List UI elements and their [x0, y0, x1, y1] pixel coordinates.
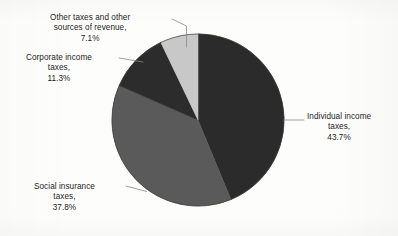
pie-slices — [112, 34, 284, 206]
pie-chart-figure: Individual income taxes, 43.7% Social in… — [0, 0, 398, 236]
slice-label-line-1: Corporate income — [26, 53, 92, 63]
slice-label-line-2: taxes, — [34, 192, 95, 202]
slice-label-value: 37.8% — [34, 203, 95, 213]
slice-label-line-2: sources of revenue, — [50, 23, 130, 33]
slice-label-line-1: Other taxes and other — [50, 13, 130, 23]
slice-label-other-taxes-and-other-sources-of-revenue: Other taxes and other sources of revenue… — [50, 13, 130, 44]
slice-label-line-2: taxes, — [26, 63, 92, 73]
slice-label-value: 7.1% — [50, 34, 130, 44]
slice-label-value: 11.3% — [26, 74, 92, 84]
slice-label-line-1: Social insurance — [34, 182, 95, 192]
slice-label-line-2: taxes, — [307, 122, 371, 132]
slice-label-social-insurance-taxes: Social insurance taxes, 37.8% — [34, 182, 95, 213]
slice-label-individual-income-taxes: Individual income taxes, 43.7% — [307, 112, 371, 143]
slice-label-corporate-income-taxes: Corporate income taxes, 11.3% — [26, 53, 92, 84]
slice-label-value: 43.7% — [307, 133, 371, 143]
slice-label-line-1: Individual income — [307, 112, 371, 122]
